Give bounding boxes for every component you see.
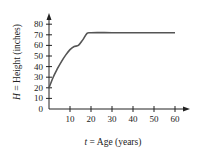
y-tick-label: 0 <box>39 104 44 114</box>
y-tick-label: 30 <box>34 72 44 82</box>
x-axis-label: t = Age (years) <box>85 137 142 148</box>
x-tick-label: 10 <box>66 114 76 124</box>
y-axis-arrow-icon <box>47 13 52 20</box>
x-tick-label: 30 <box>108 114 118 124</box>
x-axis-arrow-icon <box>183 107 190 112</box>
x-tick-label: 40 <box>129 114 139 124</box>
x-tick-label: 60 <box>171 114 181 124</box>
y-axis-label: H = Height (inches) <box>12 24 23 101</box>
y-tick-label: 60 <box>34 40 44 50</box>
y-tick-label: 20 <box>34 83 44 93</box>
y-tick-label: 50 <box>34 51 44 61</box>
height-curve <box>49 33 175 88</box>
y-tick-label: 10 <box>34 93 44 103</box>
x-tick-label: 20 <box>87 114 97 124</box>
y-tick-label: 70 <box>34 30 44 40</box>
chart: 01020304050607080 102030405060 t = Age (… <box>0 0 200 152</box>
y-tick-label: 40 <box>34 62 44 72</box>
y-tick-label: 80 <box>34 19 44 29</box>
x-tick-label: 50 <box>150 114 160 124</box>
